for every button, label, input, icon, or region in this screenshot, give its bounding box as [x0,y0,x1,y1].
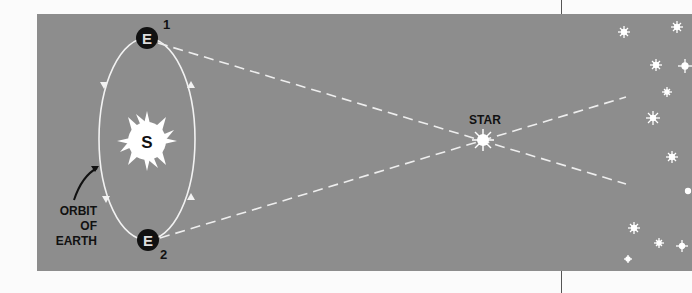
background-star-icon [662,87,672,97]
parallax-diagram: S E 1 E 2 ORBIT OF EARTH STAR [0,0,692,293]
sun-label: S [141,133,152,152]
orbit-label-line2: OF [80,219,97,233]
background-star-icon [676,240,688,252]
background-star-icon [678,59,692,73]
sight-line-e2 [160,97,626,238]
background-star-icon [666,151,678,163]
star-label: STAR [469,113,501,127]
background-star-icon [618,26,630,38]
earth-1-label: E [142,30,152,47]
background-stars [618,21,692,263]
background-star-icon [646,111,660,125]
background-star-icon [686,189,691,194]
target-star-icon [472,129,494,151]
orbit-arrow-icon [187,193,195,200]
earth-2-index: 2 [160,247,167,262]
earth-2-label: E [143,232,153,249]
background-star-icon [624,255,632,263]
background-star-icon [650,59,662,71]
background-star-icon [671,21,683,33]
orbit-label-line1: ORBIT [60,204,98,218]
orbit-pointer-arrow [74,168,97,200]
sight-line-e1 [158,43,626,184]
earth-1-index: 1 [163,17,170,32]
background-star-icon [654,238,664,248]
orbit-label-line3: EARTH [56,234,97,248]
background-star-icon [628,222,640,234]
